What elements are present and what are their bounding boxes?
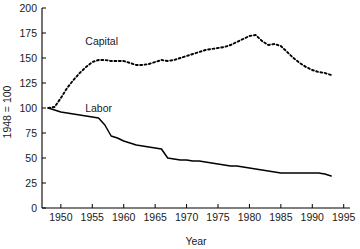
capital-labor-index-line-chart: 0255075100125150175200 19501955196019651… [0, 0, 360, 249]
y-tick-label: 200 [19, 2, 37, 14]
x-axis-title: Year [185, 235, 207, 247]
x-tick-label: 1990 [301, 211, 325, 223]
x-tick-label: 1960 [112, 211, 136, 223]
y-tick-label: 175 [19, 27, 37, 39]
x-tick-label: 1970 [175, 211, 199, 223]
x-tick-label: 1995 [332, 211, 356, 223]
series-line-labor [48, 108, 331, 176]
x-tick-label: 1975 [206, 211, 230, 223]
series-annotation-labor: Labor [85, 102, 112, 114]
x-tick-label: 1980 [238, 211, 262, 223]
x-tick-label: 1985 [269, 211, 293, 223]
y-tick-label: 125 [19, 77, 37, 89]
series-annotation-capital: Capital [85, 35, 118, 47]
x-tick-label: 1950 [49, 211, 73, 223]
y-tick-label: 150 [19, 52, 37, 64]
y-tick-label: 0 [31, 202, 37, 214]
y-tick-label: 50 [25, 152, 37, 164]
x-axis: 1950195519601965197019751980198519901995 [42, 204, 356, 223]
x-tick-label: 1955 [81, 211, 105, 223]
y-tick-label: 75 [25, 127, 37, 139]
y-tick-label: 25 [25, 177, 37, 189]
x-tick-label: 1965 [143, 211, 167, 223]
y-tick-label: 100 [19, 102, 37, 114]
y-axis: 0255075100125150175200 [19, 2, 46, 214]
series-annotations: CapitalLabor [85, 35, 118, 114]
chart-container: 0255075100125150175200 19501955196019651… [0, 0, 360, 249]
y-axis-title: 1948 = 100 [1, 85, 13, 138]
